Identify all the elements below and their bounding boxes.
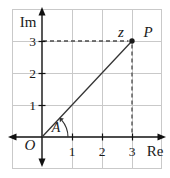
x-axis-label: Re [147, 143, 164, 159]
y-axis-arrow-up-icon [39, 7, 46, 16]
y-tick-label: 3 [29, 34, 36, 49]
x-tick-label: 3 [129, 144, 136, 159]
point-p [129, 38, 134, 43]
x-tick-label: 1 [69, 144, 76, 159]
z-label: z [117, 24, 124, 40]
y-axis-label: Im [20, 14, 37, 30]
y-tick-label: 1 [29, 98, 36, 113]
y-tick-label: 2 [29, 66, 36, 81]
angle-label: A [51, 120, 61, 135]
angle-arc [62, 120, 68, 137]
point-label: P [142, 24, 152, 40]
y-axis-arrow-down-icon [39, 159, 46, 168]
diagram-canvas: Im Re O A z P 1 2 3 1 2 3 [0, 0, 170, 178]
argand-diagram: Im Re O A z P 1 2 3 1 2 3 [0, 0, 170, 178]
origin-label: O [25, 137, 36, 153]
x-tick-label: 2 [99, 144, 106, 159]
